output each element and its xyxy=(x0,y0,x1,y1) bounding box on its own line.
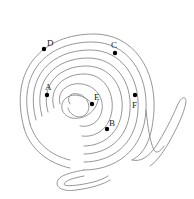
point-a-label: A xyxy=(45,82,52,92)
point-f-dot xyxy=(133,93,137,97)
point-e-label: E xyxy=(94,92,100,102)
spiral-ring-7 xyxy=(27,42,146,170)
spiral-ring-1 xyxy=(62,95,98,118)
point-C: C xyxy=(111,40,117,55)
bottom-hook-tail-outer xyxy=(57,170,110,191)
point-a-dot xyxy=(45,93,49,97)
spiral-maze-diagram: A B C D E F xyxy=(0,0,194,199)
point-c-dot xyxy=(113,51,117,55)
right-tail-outer xyxy=(132,98,186,166)
spiral-ring-2 xyxy=(59,84,102,127)
point-A: A xyxy=(45,82,52,97)
point-b-label: B xyxy=(109,118,115,128)
point-f-label: F xyxy=(132,100,137,110)
spiral-ring-8 xyxy=(20,34,154,160)
spiral-ring-4 xyxy=(46,66,122,146)
point-F: F xyxy=(132,93,137,110)
point-E: E xyxy=(90,92,100,106)
outer-left-arc-2 xyxy=(30,124,70,160)
point-B: B xyxy=(105,118,115,131)
point-c-label: C xyxy=(111,40,117,50)
point-d-dot xyxy=(42,47,46,51)
spiral-center-curl xyxy=(68,94,89,117)
point-d-label: D xyxy=(47,38,54,48)
outer-left-arc-1 xyxy=(24,128,70,168)
point-e-dot xyxy=(90,102,94,106)
maze-paths xyxy=(20,34,186,191)
right-tail-inner xyxy=(146,110,164,152)
point-D: D xyxy=(42,38,54,51)
